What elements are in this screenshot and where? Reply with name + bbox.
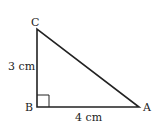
vertex-label-b: B: [25, 101, 33, 114]
vertex-label-c: C: [31, 16, 39, 29]
right-angle-marker: [37, 95, 49, 107]
triangle-diagram: C B A 3 cm 4 cm: [0, 0, 162, 129]
side-label-bc: 3 cm: [8, 60, 36, 73]
vertex-label-a: A: [142, 101, 152, 114]
side-label-ab: 4 cm: [75, 111, 103, 124]
triangle-abc: [37, 29, 139, 107]
